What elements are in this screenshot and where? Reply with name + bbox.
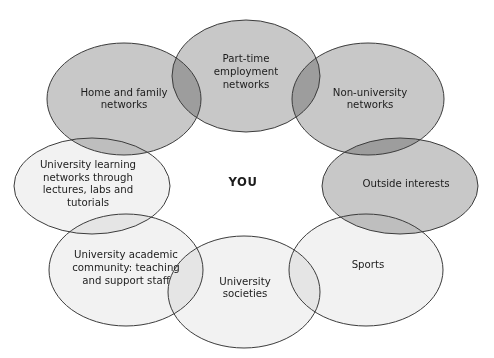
label-line: University xyxy=(219,276,270,287)
label-line: community: teaching xyxy=(72,262,180,273)
label-line: and support staff xyxy=(82,275,170,286)
label-line: employment xyxy=(214,66,278,77)
label-line: societies xyxy=(223,288,268,299)
ellipse-label-university-societies: Universitysocieties xyxy=(219,276,270,300)
ellipse-label-university-academic-community: University academiccommunity: teachingan… xyxy=(72,249,180,285)
label-line: networks xyxy=(347,99,394,110)
label-line: Sports xyxy=(352,259,385,270)
label-line: University learning xyxy=(40,159,136,170)
label-line: Non-university xyxy=(333,87,407,98)
label-line: tutorials xyxy=(67,197,109,208)
ellipse-label-sports: Sports xyxy=(352,259,385,270)
venn-diagram: Home and familynetworksPart-timeemployme… xyxy=(0,0,494,358)
venn-diagram-canvas: Home and familynetworksPart-timeemployme… xyxy=(0,0,494,358)
ellipse-label-outside-interests: Outside interests xyxy=(363,178,450,189)
label-line: Part-time xyxy=(223,53,270,64)
label-line: Outside interests xyxy=(363,178,450,189)
label-line: networks through xyxy=(43,172,133,183)
center-label-you: YOU xyxy=(227,175,257,189)
label-line: lectures, labs and xyxy=(43,184,133,195)
label-line: networks xyxy=(101,99,148,110)
label-line: Home and family xyxy=(80,87,167,98)
label-line: networks xyxy=(223,79,270,90)
center-label-layer: YOU xyxy=(227,175,257,189)
label-line: University academic xyxy=(74,249,178,260)
ellipse-label-part-time-employment-networks: Part-timeemploymentnetworks xyxy=(214,53,278,89)
